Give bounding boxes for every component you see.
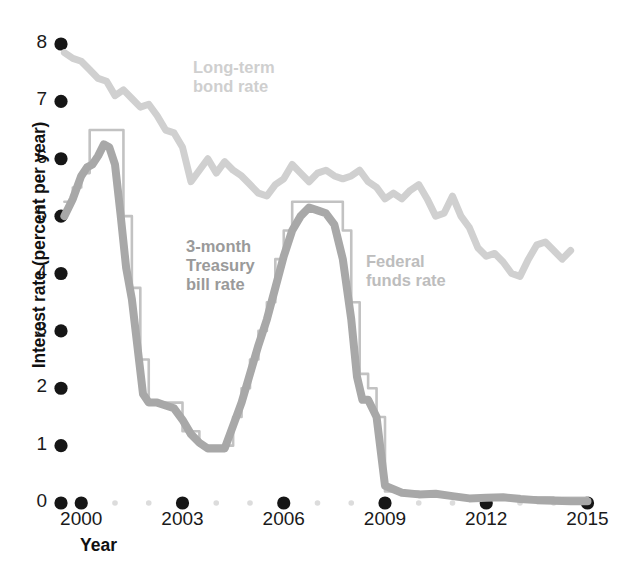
y-tick-dot	[54, 324, 67, 337]
series-layer	[64, 53, 587, 502]
y-tick-dot	[54, 95, 67, 108]
series-line-long-term-bond-rate	[64, 53, 570, 277]
y-tick-dot	[54, 152, 67, 165]
x-tick-label: 2009	[350, 508, 420, 530]
y-tick-label: 7	[21, 88, 47, 110]
y-tick-dot	[54, 267, 67, 280]
y-tick-label: 4	[21, 261, 47, 283]
chart-container: 876543210 200020032006200920122015 Inter…	[0, 0, 627, 577]
x-tick-label: 2003	[148, 508, 218, 530]
x-tick-dot-minor	[450, 500, 456, 506]
x-tick-label: 2012	[451, 508, 521, 530]
x-tick-label: 2000	[46, 508, 116, 530]
y-tick-dot	[54, 37, 67, 50]
x-tick-label: 2006	[249, 508, 319, 530]
y-tick-label: 6	[21, 146, 47, 168]
x-axis-title: Year	[80, 535, 117, 556]
y-tick-label: 1	[21, 433, 47, 455]
y-tick-dot	[54, 382, 67, 395]
x-tick-dot-minor	[112, 500, 118, 506]
y-tick-label: 3	[21, 318, 47, 340]
y-tick-dot	[54, 439, 67, 452]
series-annotation-federal-funds: Federal funds rate	[366, 252, 446, 290]
series-annotation-treasury-bill: 3-month Treasury bill rate	[186, 237, 255, 294]
series-line-federal-funds-rate	[64, 130, 587, 498]
x-tick-label: 2015	[553, 508, 623, 530]
series-line-3-month-treasury-bill-rate	[64, 144, 587, 501]
x-tick-dot-minor	[315, 500, 321, 506]
y-tick-label: 5	[21, 203, 47, 225]
series-annotation-long-term-bond: Long-term bond rate	[193, 58, 275, 96]
x-tick-dot-minor	[348, 500, 354, 506]
x-tick-dot-minor	[416, 500, 422, 506]
y-tick-label: 0	[21, 490, 47, 512]
x-tick-dot-minor	[146, 500, 152, 506]
x-tick-dot-minor	[213, 500, 219, 506]
x-tick-dot-minor	[247, 500, 253, 506]
interest-rate-line-chart	[0, 0, 627, 577]
y-tick-label: 8	[21, 31, 47, 53]
y-axis-tick-dots	[54, 37, 67, 509]
y-tick-label: 2	[21, 375, 47, 397]
